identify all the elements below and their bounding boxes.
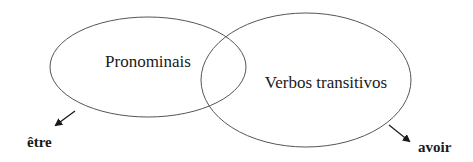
pronominais-label: Pronominais	[105, 52, 191, 71]
verbos-transitivos-label: Verbos transitivos	[265, 73, 387, 92]
venn-diagram: Pronominais Verbos transitivos être avoi…	[0, 0, 473, 162]
etre-arrow-icon	[56, 111, 75, 125]
avoir-arrow-icon	[389, 125, 409, 141]
etre-label: être	[27, 134, 52, 150]
avoir-label: avoir	[418, 139, 452, 155]
